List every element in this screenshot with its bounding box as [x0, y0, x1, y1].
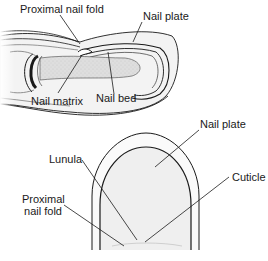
label-proximal-line1: Proximal — [22, 193, 64, 205]
finger-side-view — [0, 15, 178, 120]
label-lunula: Lunula — [49, 153, 82, 165]
label-nail-matrix: Nail matrix — [31, 95, 83, 107]
label-proximal-line2: nail fold — [22, 205, 64, 217]
label-proximal-nail-fold-top: Proximal nail fold — [22, 193, 64, 217]
label-nail-plate-top: Nail plate — [200, 118, 246, 130]
nail-anatomy-illustration — [0, 0, 268, 261]
finger-top-view — [64, 130, 229, 261]
label-proximal-nail-fold: Proximal nail fold — [20, 3, 104, 15]
label-nail-plate-side: Nail plate — [143, 10, 189, 22]
nail-plate-outline — [100, 147, 191, 250]
label-nail-bed: Nail bed — [96, 92, 136, 104]
label-cuticle: Cuticle — [232, 171, 266, 183]
